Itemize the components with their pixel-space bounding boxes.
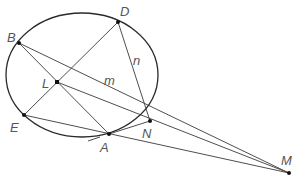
line-b-a — [19, 43, 109, 134]
line-e-m — [24, 115, 289, 173]
label-n: N — [142, 126, 152, 141]
point-a — [107, 132, 111, 136]
point-l — [55, 80, 59, 84]
line-l-m — [57, 82, 289, 173]
line-d-e — [24, 22, 118, 115]
point-d — [116, 20, 120, 24]
label-d: D — [120, 4, 129, 19]
label-l: L — [42, 76, 49, 91]
line-b-m — [19, 43, 289, 173]
label-line-m: m — [104, 73, 115, 88]
label-line-n: n — [133, 53, 140, 68]
label-m: M — [281, 153, 292, 168]
label-e: E — [10, 120, 19, 135]
tangent-mark-a — [88, 137, 100, 141]
point-e — [22, 113, 26, 117]
geometry-diagram: B D L E A N M m n — [0, 0, 299, 186]
label-b: B — [7, 30, 16, 45]
point-m — [287, 171, 291, 175]
point-n — [148, 119, 152, 123]
point-b — [17, 41, 21, 45]
label-a: A — [99, 140, 109, 155]
line-d-n — [118, 22, 150, 121]
